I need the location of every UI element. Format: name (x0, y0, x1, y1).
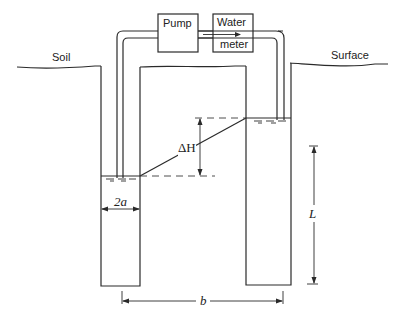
two-well-pumping-test-diagram: Pump Water meter Soil Surface ΔH 2a L b (0, 0, 402, 315)
length-arrow-up-icon (312, 146, 317, 153)
delta-h-arrow-up-icon (198, 118, 203, 125)
soil-label: Soil (52, 51, 70, 63)
spacing-label: b (200, 293, 207, 308)
water-ripples-right (254, 121, 286, 123)
water-meter-label-line2: meter (220, 38, 248, 50)
pump-label: Pump (163, 17, 192, 29)
length-arrow-down-icon (312, 277, 317, 284)
delta-h-label: ΔH (178, 140, 196, 155)
ground-surface-middle (140, 66, 246, 67)
pipe-outer (117, 31, 284, 178)
surface-label: Surface (331, 49, 369, 61)
water-meter-label-line1: Water (217, 16, 246, 28)
ground-surface-left (17, 66, 101, 68)
radius-arrow-right-icon (133, 207, 140, 212)
delta-h-arrow-down-icon (198, 169, 203, 176)
length-label: L (308, 206, 316, 221)
radius-label: 2a (114, 194, 128, 209)
radius-arrow-left-icon (101, 207, 108, 212)
ground-surface-right (290, 63, 388, 66)
water-ripples-left (106, 179, 136, 181)
spacing-arrow-left-icon (122, 299, 129, 304)
spacing-arrow-right-icon (276, 299, 283, 304)
